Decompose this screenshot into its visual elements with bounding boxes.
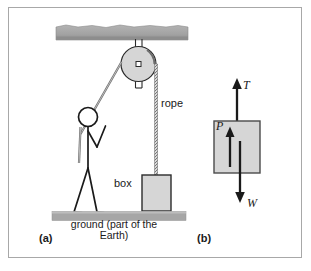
panel-label-b: (b) — [197, 233, 211, 245]
label-box: box — [114, 178, 132, 190]
force-arrow-tension — [232, 78, 242, 122]
box-shape — [142, 175, 171, 211]
label-force-weight: W — [247, 197, 257, 210]
label-ground: ground (part of the Earth) — [56, 219, 172, 242]
pulley-axle — [136, 62, 141, 67]
label-force-tension: T — [243, 79, 250, 92]
panel-label-a: (a) — [39, 233, 52, 245]
ceiling-beam — [56, 25, 188, 40]
figure-root: rope box ground (part of the Earth) T W … — [0, 0, 311, 271]
label-force-pull: P — [216, 120, 223, 133]
label-rope: rope — [161, 98, 183, 110]
